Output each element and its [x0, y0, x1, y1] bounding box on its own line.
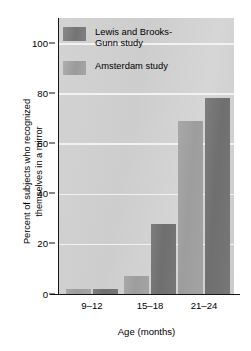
gridline-80	[59, 93, 234, 95]
y-axis-ticks: 0 20 40 60 80 100	[0, 0, 59, 351]
legend-swatch-icon-lewis-brooks-gunn	[63, 27, 86, 41]
bar-15-18-amsterdam	[124, 276, 149, 294]
y-tick-label-100: 100	[32, 37, 48, 48]
x-axis-line	[50, 294, 240, 295]
legend-swatch-icon-amsterdam	[63, 61, 86, 75]
chart-legend: Lewis and Brooks- Gunn study Amsterdam s…	[63, 26, 228, 75]
y-tick-label-60: 60	[37, 138, 48, 149]
y-tick-mark-20	[49, 243, 55, 244]
y-tick-label-20: 20	[37, 238, 48, 249]
x-tick-label-9-12: 9–12	[81, 300, 102, 311]
bar-15-18-lewis-brooks-gunn	[151, 224, 176, 294]
legend-item-amsterdam: Amsterdam study	[63, 60, 228, 75]
y-tick-mark-60	[49, 143, 55, 144]
y-tick-mark-100	[49, 42, 55, 43]
y-tick-mark-40	[49, 193, 55, 194]
y-tick-label-80: 80	[37, 87, 48, 98]
x-tick-label-21-24: 21–24	[191, 300, 218, 311]
bar-21-24-lewis-brooks-gunn	[205, 98, 230, 294]
x-tick-label-15-18: 15–18	[137, 300, 164, 311]
legend-item-lewis-brooks-gunn: Lewis and Brooks- Gunn study	[63, 26, 228, 48]
y-tick-mark-80	[49, 92, 55, 93]
legend-label-lewis-brooks-gunn: Lewis and Brooks- Gunn study	[95, 26, 172, 48]
x-axis-label: Age (months)	[59, 326, 234, 337]
y-tick-label-0: 0	[43, 288, 48, 299]
y-axis-line	[58, 18, 59, 295]
legend-label-amsterdam: Amsterdam study	[95, 60, 168, 71]
bar-21-24-amsterdam	[178, 121, 203, 294]
y-tick-label-40: 40	[37, 188, 48, 199]
bar-chart-figure: Percent of subjects who recognized thems…	[0, 0, 251, 351]
